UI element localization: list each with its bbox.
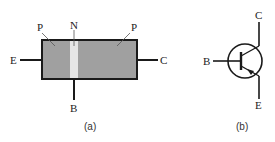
transistor-figure: P N P E C B (a) C B E (b) bbox=[0, 0, 275, 142]
n-layer bbox=[70, 41, 78, 78]
caption-a: (a) bbox=[84, 121, 96, 132]
collector-diagonal bbox=[241, 46, 259, 56]
pnp-schematic-symbol: C B E (b) bbox=[203, 9, 262, 132]
label-emitter: E bbox=[10, 54, 17, 66]
label-p-left: P bbox=[37, 21, 43, 33]
caption-b: (b) bbox=[236, 121, 248, 132]
pnp-block-diagram: P N P E C B (a) bbox=[10, 19, 167, 132]
emitter-arrow-icon bbox=[247, 69, 254, 75]
symbol-label-emitter: E bbox=[255, 99, 262, 111]
semiconductor-body bbox=[42, 40, 137, 79]
label-n: N bbox=[70, 19, 78, 31]
label-base: B bbox=[70, 102, 77, 114]
label-collector: C bbox=[160, 54, 167, 66]
label-p-right: P bbox=[131, 21, 137, 33]
symbol-label-base: B bbox=[203, 55, 210, 67]
symbol-label-collector: C bbox=[255, 9, 262, 21]
